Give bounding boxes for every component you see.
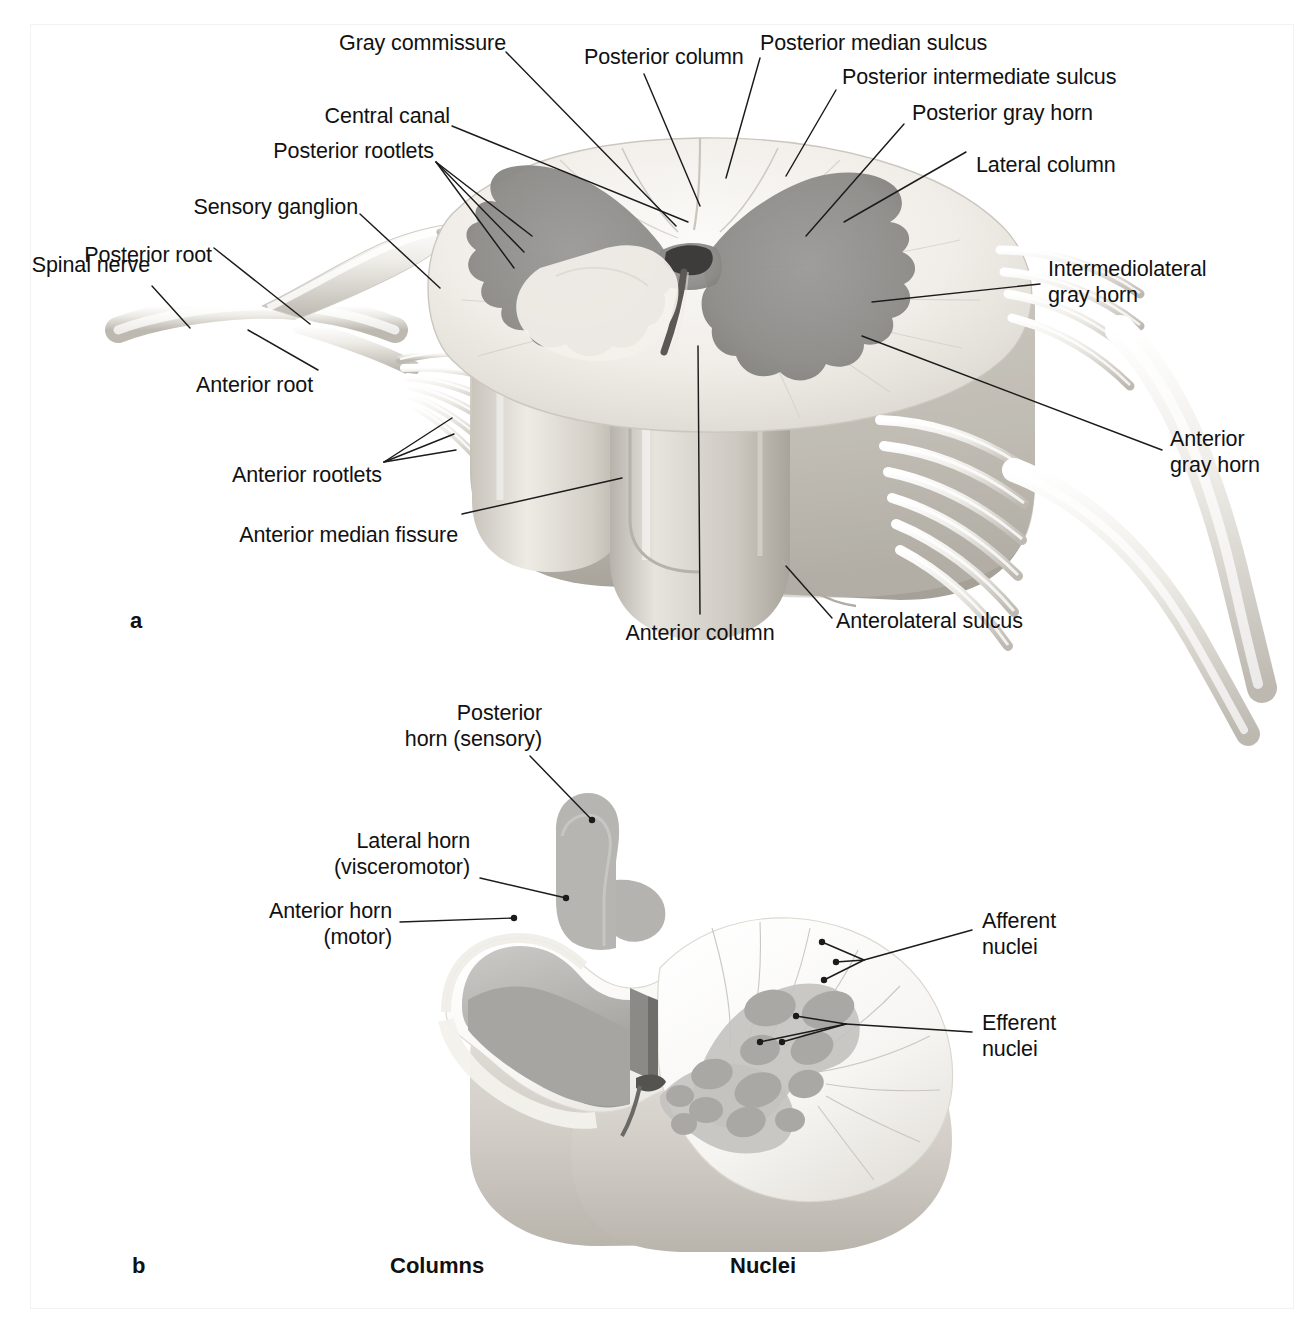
label-intermediolateral-gray-horn-line1: Intermediolateral <box>1048 256 1206 282</box>
label-anterior-horn-motor-line1: Anterior horn <box>126 898 392 924</box>
label-gray-commissure: Gray commissure <box>0 30 506 56</box>
figure-page: Gray commissure Posterior column Posteri… <box>0 0 1316 1331</box>
label-sensory-ganglion: Sensory ganglion <box>0 194 358 220</box>
panel-a-right-nerve-bundle <box>880 249 1262 734</box>
label-anterior-gray-horn-line1: Anterior <box>1170 426 1260 452</box>
panel-a-cord-body <box>428 138 1035 640</box>
label-anterior-median-fissure: Anterior median fissure <box>0 522 458 548</box>
label-anterior-root: Anterior root <box>196 372 313 398</box>
label-lateral-horn-visceromotor: Lateral horn (visceromotor) <box>216 828 470 880</box>
label-posterior-horn-sensory: Posterior horn (sensory) <box>330 700 542 752</box>
label-afferent-nuclei-line2: nuclei <box>982 934 1056 960</box>
panel-b-columns-heading: Columns <box>390 1253 484 1279</box>
label-posterior-median-sulcus: Posterior median sulcus <box>760 30 987 56</box>
label-anterior-gray-horn: Anterior gray horn <box>1170 426 1260 478</box>
panel-b-leader-lines <box>400 756 972 1045</box>
label-afferent-nuclei: Afferent nuclei <box>982 908 1056 960</box>
label-anterior-rootlets: Anterior rootlets <box>0 462 382 488</box>
label-posterior-gray-horn: Posterior gray horn <box>912 100 1093 126</box>
label-efferent-nuclei: Efferent nuclei <box>982 1010 1056 1062</box>
label-anterior-gray-horn-line2: gray horn <box>1170 452 1260 478</box>
label-posterior-column: Posterior column <box>584 44 744 70</box>
label-spinal-nerve: Spinal nerve <box>0 252 150 278</box>
label-posterior-horn-sensory-line1: Posterior <box>330 700 542 726</box>
label-anterior-column: Anterior column <box>578 620 822 646</box>
label-efferent-nuclei-line2: nuclei <box>982 1036 1056 1062</box>
label-posterior-intermediate-sulcus: Posterior intermediate sulcus <box>842 64 1116 90</box>
label-anterior-horn-motor: Anterior horn (motor) <box>126 898 392 950</box>
label-posterior-horn-sensory-line2: horn (sensory) <box>330 726 542 752</box>
panel-b-letter: b <box>132 1253 145 1279</box>
label-afferent-nuclei-line1: Afferent <box>982 908 1056 934</box>
label-efferent-nuclei-line1: Efferent <box>982 1010 1056 1036</box>
label-lateral-horn-visceromotor-line2: (visceromotor) <box>216 854 470 880</box>
label-anterolateral-sulcus: Anterolateral sulcus <box>836 608 1023 634</box>
label-intermediolateral-gray-horn: Intermediolateral gray horn <box>1048 256 1206 308</box>
panel-a-letter: a <box>130 608 142 634</box>
label-anterior-horn-motor-line2: (motor) <box>126 924 392 950</box>
label-central-canal: Central canal <box>0 103 450 129</box>
label-lateral-horn-visceromotor-line1: Lateral horn <box>216 828 470 854</box>
panel-b-cord-block <box>446 793 953 1252</box>
label-posterior-rootlets: Posterior rootlets <box>0 138 434 164</box>
label-lateral-column: Lateral column <box>976 152 1116 178</box>
panel-b-nuclei-heading: Nuclei <box>730 1253 796 1279</box>
label-intermediolateral-gray-horn-line2: gray horn <box>1048 282 1206 308</box>
